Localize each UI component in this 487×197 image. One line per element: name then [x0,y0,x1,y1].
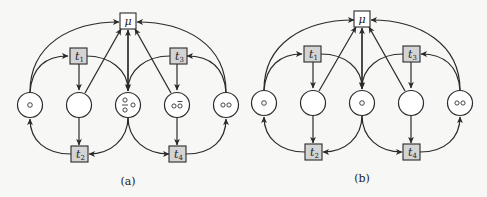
place-4 [399,91,424,116]
place-3 [116,93,141,118]
mu-label: μ [358,13,365,26]
transition-t2: t2 [71,146,88,162]
place-5 [214,93,239,118]
place-3 [350,91,375,116]
marking-node-mu: μ [354,11,370,27]
place-1 [18,93,43,118]
transition-t4: t4 [169,146,186,162]
place-4 [165,93,190,118]
mu-label: μ [124,15,131,28]
transition-t2: t2 [305,144,322,160]
transition-t3: t3 [403,46,420,62]
place-2 [67,93,92,118]
place-1 [252,91,277,116]
caption-a: (a) [120,175,135,188]
caption-b: (b) [354,172,370,185]
transition-t3: t3 [170,48,187,64]
panel-b: μ t1 t3 t2 t4 [252,11,473,185]
transition-t1: t1 [304,46,321,62]
panel-a: μ t1 t3 t2 t4 [18,13,239,188]
panel-b-arcs [264,20,460,152]
panel-a-arcs [30,22,226,154]
marking-node-mu: μ [120,13,136,29]
petri-net-figure: μ t1 t3 t2 t4 [0,0,487,197]
place-5 [448,91,473,116]
transition-t1: t1 [70,48,87,64]
place-2 [301,91,326,116]
transition-t4: t4 [403,144,420,160]
